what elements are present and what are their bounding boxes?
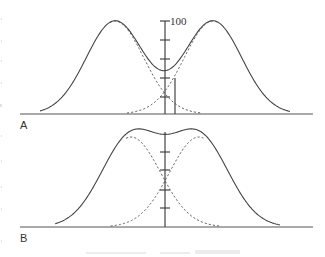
panel-a-axis-label-100: 100 xyxy=(170,15,187,27)
panel-a: 100 A xyxy=(20,15,313,131)
panel-b-label: B xyxy=(20,232,27,244)
gaussian-summation-figure: 100 A B xyxy=(0,0,325,257)
panel-b-sum-curve xyxy=(55,129,280,225)
panel-a-label: A xyxy=(20,119,28,131)
left-margin-artifacts xyxy=(0,18,2,242)
bottom-bleed-artifact xyxy=(86,250,240,254)
panel-b-component-left-dashed xyxy=(126,137,219,226)
panel-b-component-right-dashed xyxy=(111,137,204,226)
panel-b: B xyxy=(20,129,313,244)
